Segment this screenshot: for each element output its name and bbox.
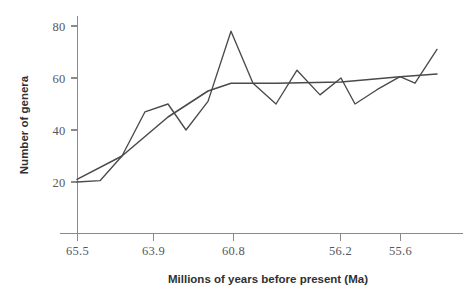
chart-figure: 20406080 65.563.960.856.255.6 Number of …: [0, 0, 470, 296]
x-tick-label-55.6: 55.6: [389, 244, 412, 258]
x-axis-tick-labels: 65.563.960.856.255.6: [66, 244, 412, 258]
series-line-number-of-genera: [77, 31, 437, 182]
y-axis-title: Number of genera: [18, 75, 30, 174]
y-axis-tick-labels: 20406080: [52, 20, 65, 190]
chart-axes: [60, 16, 463, 234]
line-chart-svg: 20406080 65.563.960.856.255.6 Number of …: [0, 0, 470, 296]
y-tick-label-60: 60: [52, 72, 65, 86]
x-tick-label-65.5: 65.5: [66, 244, 89, 258]
x-tick-label-63.9: 63.9: [142, 244, 165, 258]
x-tick-label-56.2: 56.2: [329, 244, 352, 258]
y-tick-label-20: 20: [52, 176, 65, 190]
x-axis-title: Millions of years before present (Ma): [168, 273, 368, 285]
x-tick-label-60.8: 60.8: [222, 244, 245, 258]
y-tick-label-40: 40: [52, 124, 65, 138]
y-axis-ticks: [71, 26, 78, 182]
x-axis-ticks: [78, 234, 401, 241]
y-tick-label-80: 80: [52, 20, 65, 34]
series-line-smoothed-trend: [77, 74, 437, 179]
data-series-group: [77, 31, 437, 182]
